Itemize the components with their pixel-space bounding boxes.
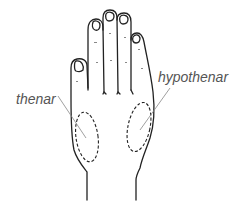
- index-finger-nail: [92, 21, 100, 30]
- hypothenar-label: hypothenar: [158, 70, 228, 84]
- hypothenar-region: [123, 100, 155, 153]
- hand-diagram: thenar hypothenar: [0, 0, 235, 201]
- crease-middle: [117, 92, 120, 94]
- thumb-nail: [75, 61, 84, 72]
- middle-finger-nail: [106, 12, 114, 21]
- crease-index: [103, 92, 106, 94]
- crease-ring: [131, 90, 133, 94]
- ring-finger-nail: [120, 15, 128, 24]
- thumb-outline: [71, 59, 88, 200]
- little-finger-outline: [131, 33, 154, 200]
- little-finger-nail: [133, 35, 140, 43]
- middle-finger-outline: [103, 10, 118, 92]
- hypothenar-leader-line: [140, 88, 170, 130]
- thenar-label: thenar: [16, 92, 56, 106]
- thenar-region: [73, 111, 102, 164]
